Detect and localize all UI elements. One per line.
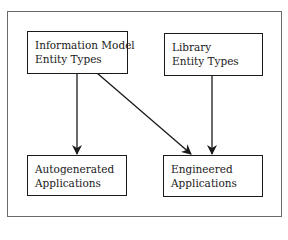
node-label-line: Applications	[35, 176, 126, 190]
node-label-line: Entity Types	[35, 52, 127, 66]
node-label-line: Applications	[171, 176, 262, 190]
node-library-entity-types: Library Entity Types	[164, 33, 263, 76]
node-information-model-entity-types: Information Model Entity Types	[27, 31, 128, 74]
node-label-line: Entity Types	[172, 54, 262, 68]
node-label-line: Autogenerated	[35, 162, 126, 176]
node-autogenerated-applications: Autogenerated Applications	[27, 155, 127, 196]
node-label-line: Information Model	[35, 38, 127, 52]
edge-info-to-engineered	[97, 73, 191, 154]
node-label-line: Library	[172, 40, 262, 54]
node-label-line: Engineered	[171, 162, 262, 176]
node-engineered-applications: Engineered Applications	[163, 155, 263, 197]
